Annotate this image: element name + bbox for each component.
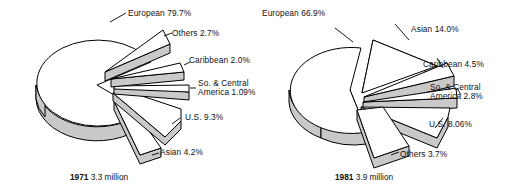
label-us-1981: U.S. 8.06% xyxy=(429,120,472,130)
label-socentral-line2-1971: America 1.09% xyxy=(198,87,256,97)
label-others-1971: Others 2.7% xyxy=(172,29,219,39)
caption-1971: 1971 3.3 million xyxy=(70,172,128,182)
chart-1971: European 79.7% Others 2.7% Caribbean 2.0… xyxy=(0,0,258,194)
label-caribbean-1971: Caribbean 2.0% xyxy=(189,56,250,66)
label-european-1971: European 79.7% xyxy=(128,9,191,19)
label-others-1981: Others 3.7% xyxy=(400,150,447,160)
label-socentral-line2-1981: America 2.8% xyxy=(430,91,483,101)
label-socentral-1971: So. & Central America 1.09% xyxy=(198,79,256,98)
caption-year-1981: 1981 xyxy=(335,172,353,182)
label-european-1981: European 66.9% xyxy=(262,9,325,19)
pie-chart-pair-figure: European 79.7% Others 2.7% Caribbean 2.0… xyxy=(0,0,515,194)
label-asian-1971: Asian 4.2% xyxy=(160,148,203,158)
caption-1981: 1981 3.9 million xyxy=(335,172,393,182)
caption-total-1971: 3.3 million xyxy=(88,172,128,182)
leader-european xyxy=(335,28,353,42)
leader-asian xyxy=(395,24,409,40)
caption-year-1971: 1971 xyxy=(70,172,88,182)
leader-european xyxy=(110,13,126,22)
caption-total-1981: 3.9 million xyxy=(353,172,393,182)
chart-1981: European 66.9% Asian 14.0% Caribbean 4.5… xyxy=(257,0,515,194)
label-socentral-1981: So. & Central America 2.8% xyxy=(430,83,483,102)
label-caribbean-1981: Caribbean 4.5% xyxy=(423,60,484,70)
label-asian-1981: Asian 14.0% xyxy=(411,25,459,35)
label-us-1971: U.S. 9.3% xyxy=(185,113,223,123)
